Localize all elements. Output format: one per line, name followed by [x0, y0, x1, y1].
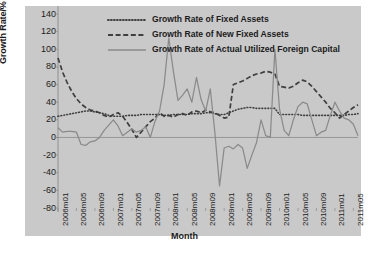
legend-label-2: Growth Rate of Actual Utilized Foreign C… — [152, 44, 340, 54]
series-line-2 — [58, 38, 358, 186]
legend-label-1: Growth Rate of New Fixed Assets — [152, 29, 289, 39]
chart-figure: 140120100806040200-20-40-60-80 Growth Ra… — [0, 0, 369, 258]
legend-label-0: Growth Rate of Fixed Assets — [152, 14, 269, 24]
